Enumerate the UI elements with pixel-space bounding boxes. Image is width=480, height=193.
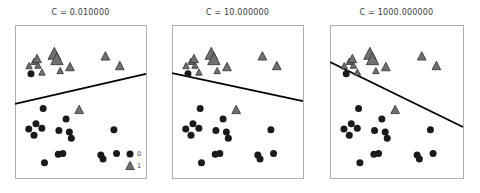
data-point-class-0 bbox=[340, 126, 347, 133]
data-point-class-0 bbox=[356, 159, 363, 166]
data-point-class-0 bbox=[371, 127, 378, 134]
data-point-class-0 bbox=[384, 135, 391, 142]
axes-frame bbox=[331, 26, 464, 179]
data-point-class-0 bbox=[375, 150, 382, 157]
svm-regularization-figure: C = 0.010000 01 C = 10.000000 C = 1000.0… bbox=[0, 0, 480, 193]
axes-area bbox=[0, 0, 480, 193]
data-point-class-0 bbox=[378, 116, 385, 123]
data-point-class-0 bbox=[416, 155, 423, 162]
panel-3: C = 1000.000000 bbox=[0, 0, 480, 193]
data-point-class-0 bbox=[354, 125, 361, 132]
data-point-class-0 bbox=[343, 70, 350, 77]
data-point-class-0 bbox=[382, 129, 389, 136]
data-point-class-0 bbox=[346, 132, 353, 139]
data-point-class-0 bbox=[348, 120, 355, 127]
data-point-class-0 bbox=[430, 150, 437, 157]
data-point-class-0 bbox=[355, 105, 362, 112]
data-point-class-0 bbox=[427, 126, 434, 133]
panel-canvas bbox=[0, 0, 480, 193]
